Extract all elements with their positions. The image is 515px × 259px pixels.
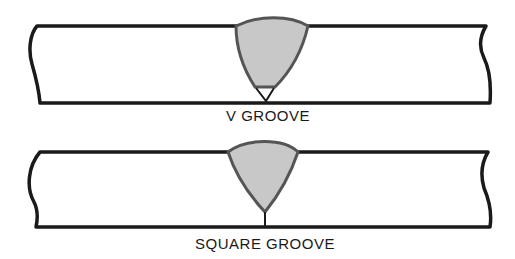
- weld-groove-diagram: [0, 0, 515, 259]
- v-groove-joint: [30, 18, 490, 103]
- v-groove-root-gap: [256, 88, 274, 101]
- v-groove-label: V GROOVE: [213, 107, 323, 124]
- square-groove-joint: [29, 142, 491, 228]
- v-groove-weld-bead: [236, 18, 308, 87]
- square-groove-weld-bead: [228, 142, 298, 213]
- square-groove-label: SQUARE GROOVE: [180, 235, 350, 252]
